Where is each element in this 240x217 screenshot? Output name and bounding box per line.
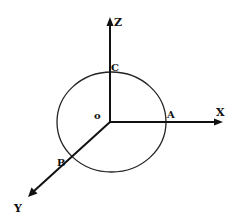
- z-arrowhead-icon: [107, 17, 114, 26]
- diagram-canvas: Z X Y C A B o: [0, 0, 240, 217]
- x-arrowhead-icon: [214, 119, 223, 126]
- y-axis-label: Y: [13, 202, 22, 215]
- point-b-label: B: [57, 157, 65, 168]
- origin-label: o: [94, 110, 101, 121]
- z-axis-label: Z: [114, 16, 122, 29]
- y-axis: [28, 122, 110, 197]
- x-axis-label: X: [216, 106, 225, 119]
- point-a-label: A: [166, 109, 175, 120]
- point-c-label: C: [111, 62, 119, 73]
